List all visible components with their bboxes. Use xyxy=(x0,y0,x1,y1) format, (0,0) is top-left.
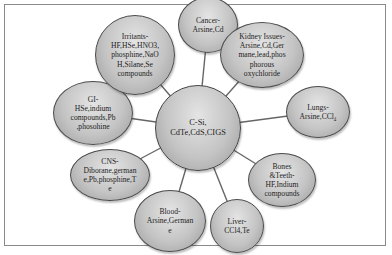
node-bones-label: Bones &Teeth- HF,Indium compounds xyxy=(264,162,299,199)
node-bones: Bones &Teeth- HF,Indium compounds xyxy=(248,153,316,207)
node-cancer-label: Cancer- Arsine,Cd xyxy=(192,16,223,34)
node-cns-label: CNS- Diborane,german e,Pb,phosphine,T e xyxy=(84,157,137,194)
node-liver-label: Liver- CCl4,Te xyxy=(224,217,249,235)
node-lungs: Lungs- Arsine,CCl₄ xyxy=(286,86,350,138)
node-kidney: Kidney Issues- Arsine,Cd,Ger mane,lead,p… xyxy=(220,22,304,88)
node-irritants-label: Irritants- HF,HSe,HNO3, phosphine,NaO H,… xyxy=(111,32,159,78)
node-gi-label: GI- HSe,indium compounds,Pb ,phosohine xyxy=(71,95,116,132)
node-blood: Blood- Arsine,German e xyxy=(134,190,206,252)
node-kidney-label: Kidney Issues- Arsine,Cd,Ger mane,lead,p… xyxy=(238,32,285,78)
node-lungs-label: Lungs- Arsine,CCl₄ xyxy=(299,103,336,121)
node-liver: Liver- CCl4,Te xyxy=(210,199,264,253)
node-blood-label: Blood- Arsine,German e xyxy=(147,207,194,235)
center-node-label: C-Si, CdTe,CdS,CIGS xyxy=(170,118,226,138)
node-cns: CNS- Diborane,german e,Pb,phosphine,T e xyxy=(70,149,150,201)
center-node: C-Si, CdTe,CdS,CIGS xyxy=(155,85,241,171)
node-irritants: Irritants- HF,HSe,HNO3, phosphine,NaO H,… xyxy=(95,15,175,95)
